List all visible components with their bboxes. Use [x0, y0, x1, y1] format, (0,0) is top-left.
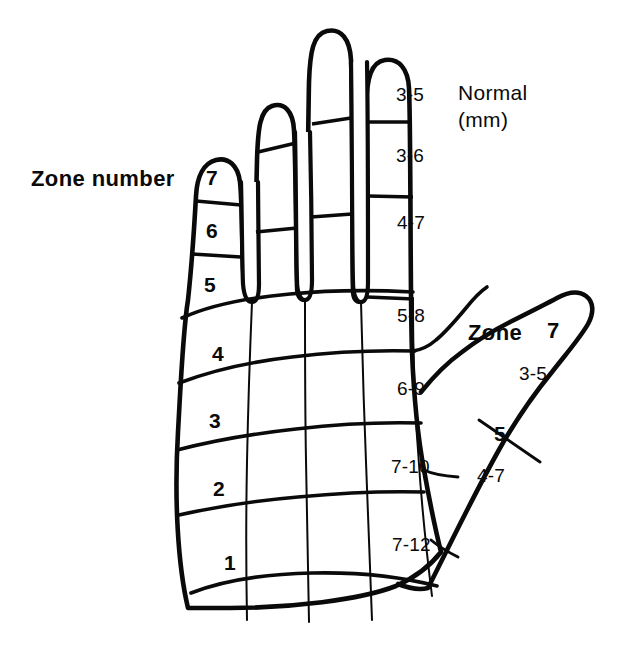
caption-normal-line2: (mm)	[458, 109, 527, 130]
zone-number-4-palm: 4	[212, 343, 224, 364]
webspace-little-ring	[241, 182, 259, 302]
measurement-zone-3-palm: 6-9	[397, 379, 425, 398]
caption-thumb-zone-value: 7	[547, 320, 560, 342]
measurement-zone-7-index: 3-5	[396, 85, 424, 104]
measurement-zone-6-index: 3-6	[396, 146, 424, 165]
zone-number-5-thenar: 5	[494, 423, 506, 444]
webspace-middle-index	[351, 62, 368, 302]
measurement-zone-5-index: 4-7	[397, 213, 425, 232]
hand-zone-diagram: Zone number Normal (mm) Zone 7 7 6 5 4 3…	[0, 0, 628, 659]
zone-number-7-little-finger: 7	[206, 167, 218, 188]
zone-number-6-little-finger: 6	[206, 220, 218, 241]
webspace-ring-middle	[295, 132, 312, 300]
caption-normal-line1: Normal	[458, 81, 527, 104]
caption-thumb-zone: Zone	[468, 322, 522, 344]
hand-illustration	[0, 0, 628, 659]
thumb-zone-line-7-5	[479, 420, 540, 462]
measurement-zone-2-palm: 7-10	[391, 457, 430, 476]
measurement-zone-7-thumb: 3-5	[519, 364, 547, 383]
zone-number-5-little-finger: 5	[204, 274, 216, 295]
measurement-zone-1-palm: 7-12	[392, 535, 431, 554]
zone-number-3-palm: 3	[209, 410, 221, 431]
caption-normal-mm: Normal (mm)	[458, 82, 527, 130]
crease-index-mcp	[367, 297, 414, 299]
zone-number-1-palm: 1	[224, 552, 236, 573]
crease-index-pip	[368, 196, 413, 197]
measurement-zone-5-thenar: 4-7	[477, 466, 505, 485]
zone-number-2-palm: 2	[213, 478, 225, 499]
caption-zone-number: Zone number	[31, 168, 175, 190]
measurement-zone-4-palm: 5-8	[397, 306, 425, 325]
